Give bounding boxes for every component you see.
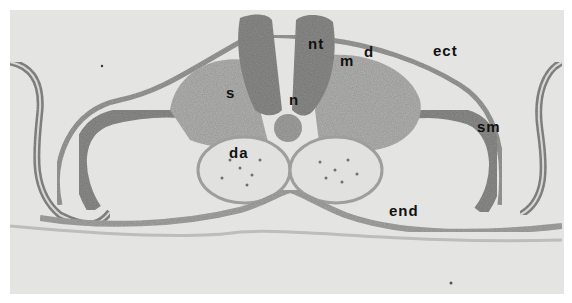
label-dorsal-aorta: da	[229, 145, 249, 160]
label-ectoderm: ect	[433, 43, 458, 58]
label-somatic-mesoderm: sm	[477, 119, 501, 134]
label-neural-tube: nt	[308, 36, 324, 51]
label-myotome: m	[340, 53, 354, 68]
label-notochord: n	[289, 92, 299, 107]
tissue-section-drawing	[10, 10, 564, 294]
label-endoderm: end	[389, 203, 419, 218]
label-sclerotome: s	[226, 85, 235, 100]
label-dermatome: d	[364, 44, 374, 59]
micrograph: nt m d ect s n sm da end	[10, 10, 564, 294]
